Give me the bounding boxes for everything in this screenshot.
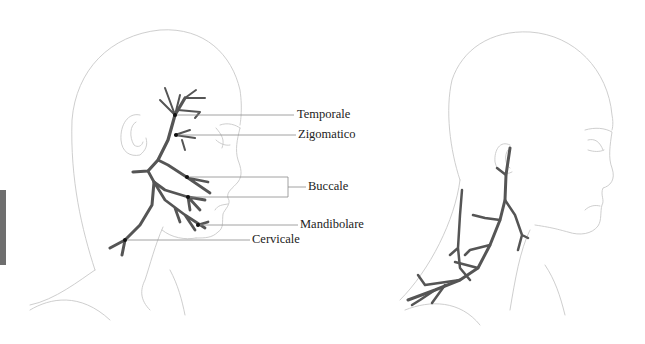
cervical-nerve-tree xyxy=(408,148,528,305)
label-temporale: Temporale xyxy=(297,108,350,121)
label-cervicale: Cervicale xyxy=(252,233,300,246)
left-head-outline xyxy=(30,30,241,320)
label-buccale: Buccale xyxy=(308,180,348,193)
label-mandibolare: Mandibolare xyxy=(300,218,364,231)
anatomy-diagram xyxy=(0,0,645,344)
label-zigomatico: Zigomatico xyxy=(298,128,356,141)
facial-nerve-tree xyxy=(110,88,210,255)
